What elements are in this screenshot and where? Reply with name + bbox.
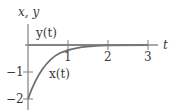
series-label-x: x(t) bbox=[49, 67, 70, 81]
t-tick-label-1: 1 bbox=[64, 50, 72, 64]
vertical-axis-label: x, y bbox=[18, 5, 39, 19]
series-label-y: y(t) bbox=[35, 26, 57, 40]
y-tick-label-minus2: −2 bbox=[6, 92, 24, 106]
t-tick-label-3: 3 bbox=[144, 50, 152, 64]
y-tick-label-minus1: −1 bbox=[6, 65, 24, 79]
plot-canvas: x, y t 1 2 3 −1 −2 y(t) x(t) bbox=[0, 0, 178, 112]
x-t-curve bbox=[28, 45, 148, 99]
t-axis-label: t bbox=[163, 38, 168, 52]
t-tick-label-2: 2 bbox=[104, 50, 112, 64]
